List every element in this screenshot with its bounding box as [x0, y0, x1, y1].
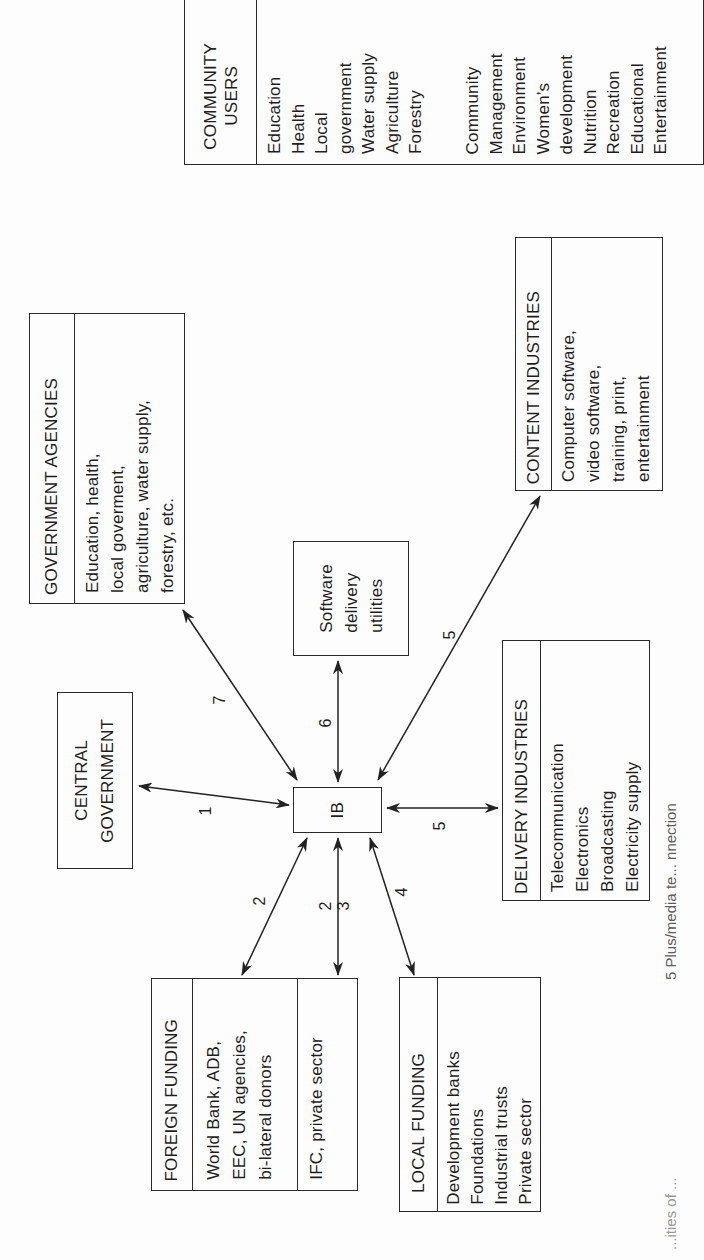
edge-2-foreign-funding [242, 838, 307, 975]
government-agencies-box: GOVERNMENT AGENCIES Education, health, l… [29, 313, 185, 604]
edge-label-4: 4 [394, 888, 410, 897]
edge-label-2b: 2 [318, 902, 334, 911]
content-industries-box: CONTENT INDUSTRIES Computer software, vi… [515, 237, 663, 491]
government-agencies-title: GOVERNMENT AGENCIES [41, 378, 63, 595]
government-agencies-body: Education, health, local goverment, agri… [80, 314, 180, 603]
content-industries-title: CONTENT INDUSTRIES [523, 291, 545, 484]
figure-caption: 5 Plus/media te... nnection [662, 580, 679, 980]
local-funding-title: LOCAL FUNDING [408, 1053, 430, 1193]
foreign-funding-ifc: IFC, private sector [304, 979, 330, 1190]
edge-label-7: 7 [212, 696, 228, 705]
edge-1-central-government [139, 786, 289, 805]
figure-caption-lower: ...ities of ... [662, 1000, 679, 1250]
delivery-industries-header: DELIVERY INDUSTRIES [503, 641, 541, 900]
edge-label-3: 3 [336, 902, 352, 911]
community-users-header: COMMUNITY USERS [185, 0, 257, 164]
edge-label-5-content: 5 [442, 631, 458, 640]
content-industries-body: Computer software, video software, train… [556, 238, 656, 490]
edge-label-5-delivery: 5 [432, 822, 448, 831]
foreign-funding-box: FOREIGN FUNDING World Bank, ADB, EEC, UN… [151, 978, 358, 1191]
ib-hub-label: IB [327, 802, 349, 818]
local-funding-box: LOCAL FUNDING Development banks Foundati… [399, 977, 541, 1212]
community-users-list-1: Education Health Local government Water … [263, 0, 428, 164]
software-delivery-box: Software delivery utilities [293, 541, 409, 656]
central-government-title: CENTRAL GOVERNMENT [69, 719, 121, 843]
edge-label-6: 6 [318, 719, 334, 728]
content-industries-header: CONTENT INDUSTRIES [516, 238, 552, 490]
edge-label-2: 2 [252, 897, 268, 906]
community-users-list-2: Community Management Environment Women’s… [461, 0, 673, 164]
foreign-funding-header: FOREIGN FUNDING [152, 979, 193, 1190]
delivery-industries-box: DELIVERY INDUSTRIES Telecommunication El… [502, 640, 650, 901]
edge-label-1: 1 [198, 807, 214, 816]
central-government-box: CENTRAL GOVERNMENT [57, 692, 133, 869]
government-agencies-header: GOVERNMENT AGENCIES [30, 314, 75, 603]
foreign-funding-donors: World Bank, ADB, EEC, UN agencies, bi-la… [193, 979, 298, 1190]
software-delivery-title: Software delivery utilities [314, 564, 389, 633]
edge-4-local-funding [370, 838, 414, 975]
community-users-title: COMMUNITY USERS [200, 43, 242, 150]
foreign-funding-title: FOREIGN FUNDING [161, 1019, 183, 1182]
delivery-industries-title: DELIVERY INDUSTRIES [511, 699, 533, 894]
edge-7-government-agencies [183, 610, 297, 780]
local-funding-header: LOCAL FUNDING [400, 978, 438, 1211]
local-funding-body: Development banks Foundations Industrial… [442, 978, 538, 1211]
ib-hub-box: IB [293, 787, 382, 833]
community-users-box: COMMUNITY USERS Education Health Local g… [184, 0, 704, 165]
delivery-industries-body: Telecommunication Electronics Broadcasti… [545, 641, 645, 900]
